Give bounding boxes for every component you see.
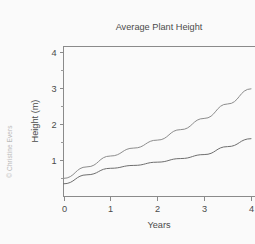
data-series-group (64, 89, 252, 184)
line-chart-plot: 1234 01234 Height (m) Years (0, 0, 255, 244)
y-axis-ticks (60, 53, 64, 179)
y-tick-label: 1 (51, 156, 56, 166)
x-tick-label: 0 (62, 204, 67, 214)
x-axis-tick-labels: 01234 (62, 204, 254, 214)
x-tick-label: 4 (249, 204, 254, 214)
x-axis-ticks (65, 197, 252, 201)
chart-figure: © Christine Evers Average Plant Height 1… (0, 0, 255, 244)
x-axis-title: Years (147, 220, 171, 230)
x-tick-label: 1 (108, 204, 113, 214)
series-lower-curve (64, 139, 252, 184)
series-upper-curve (64, 89, 252, 179)
x-tick-label: 3 (202, 204, 207, 214)
y-axis-title: Height (m) (30, 100, 40, 143)
y-tick-label: 4 (51, 48, 56, 58)
y-tick-label: 3 (51, 84, 56, 94)
y-tick-label: 2 (51, 120, 56, 130)
y-axis-tick-labels: 1234 (51, 48, 56, 166)
x-tick-label: 2 (155, 204, 160, 214)
